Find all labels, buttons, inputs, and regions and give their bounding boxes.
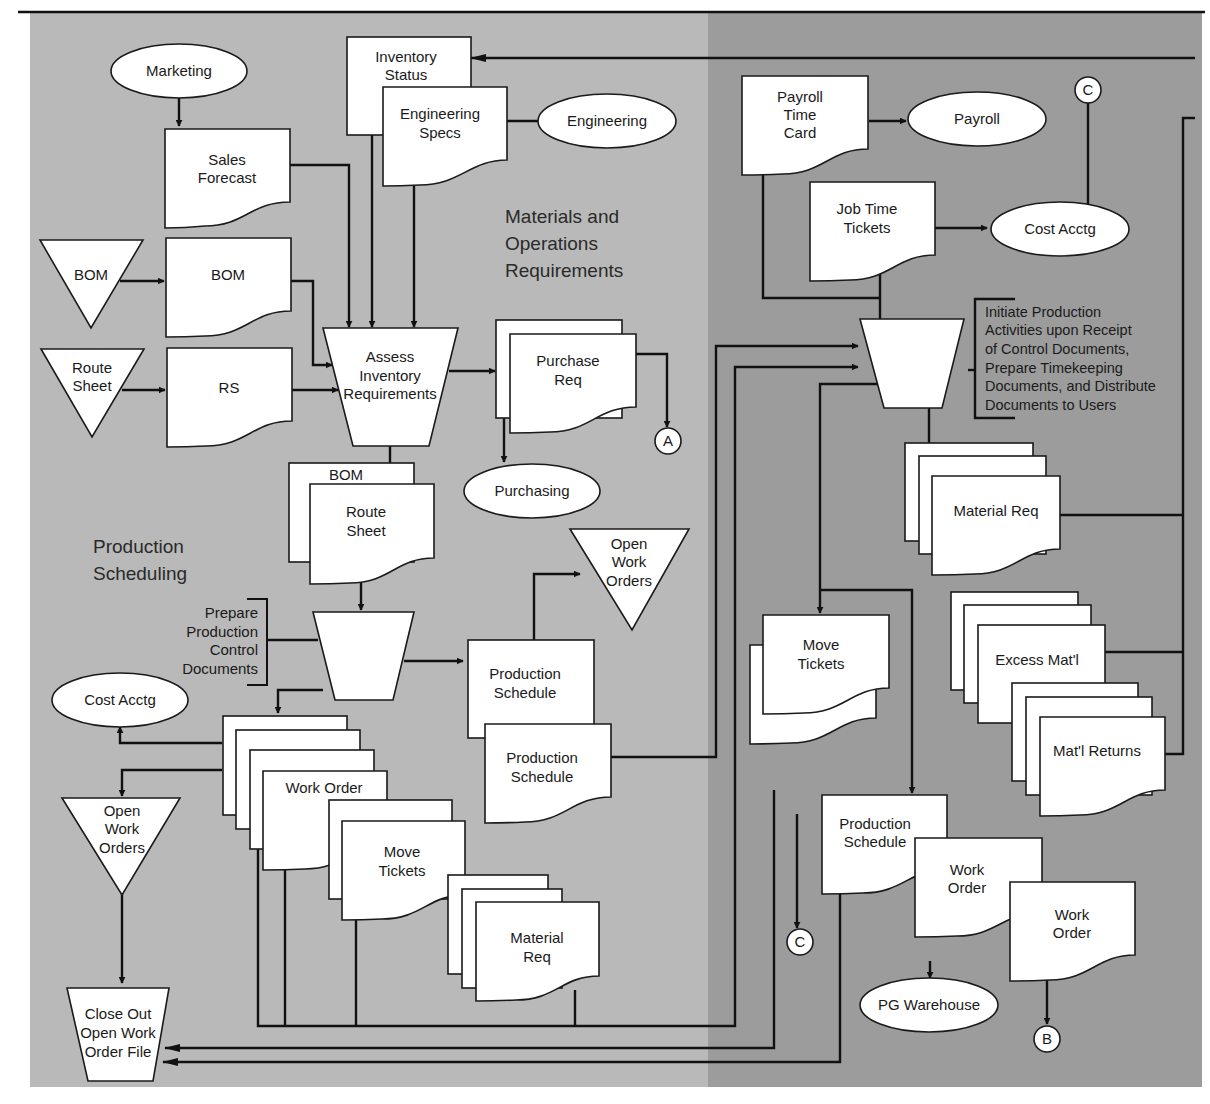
svg-text:Route: Route	[346, 503, 386, 520]
svg-text:Route: Route	[72, 359, 112, 376]
terminal-marketing[interactable]: Marketing	[111, 44, 247, 98]
svg-text:Purchase: Purchase	[536, 352, 599, 369]
svg-text:C: C	[795, 933, 806, 950]
flowchart-canvas: Materials and Operations Requirements Pr…	[0, 0, 1210, 1104]
svg-text:Work: Work	[950, 861, 985, 878]
svg-text:Order File: Order File	[85, 1043, 152, 1060]
svg-text:Order: Order	[1053, 924, 1091, 941]
terminal-purchasing[interactable]: Purchasing	[464, 464, 600, 518]
svg-text:Card: Card	[784, 124, 817, 141]
svg-text:Payroll: Payroll	[954, 110, 1000, 127]
svg-text:Sheet: Sheet	[72, 377, 112, 394]
svg-text:A: A	[663, 432, 673, 449]
svg-text:Tickets: Tickets	[379, 862, 426, 879]
svg-text:Excess Mat'l: Excess Mat'l	[995, 651, 1079, 668]
terminal-engineering[interactable]: Engineering	[538, 94, 676, 148]
terminal-pg-warehouse[interactable]: PG Warehouse	[860, 978, 998, 1032]
svg-text:Schedule: Schedule	[511, 768, 574, 785]
svg-text:Schedule: Schedule	[494, 684, 557, 701]
svg-text:Tickets: Tickets	[844, 219, 891, 236]
svg-text:Requirements: Requirements	[505, 260, 623, 281]
svg-text:Cost Acctg: Cost Acctg	[84, 691, 156, 708]
svg-text:Documents, and Distribute: Documents, and Distribute	[985, 378, 1156, 394]
terminal-cost-acctg-left[interactable]: Cost Acctg	[52, 673, 188, 727]
svg-text:Schedule: Schedule	[844, 833, 907, 850]
svg-text:Production: Production	[839, 815, 911, 832]
svg-text:Initiate Production: Initiate Production	[985, 304, 1101, 320]
svg-text:Scheduling: Scheduling	[93, 563, 187, 584]
svg-text:Production: Production	[506, 749, 578, 766]
svg-text:Prepare: Prepare	[205, 604, 258, 621]
svg-text:Work: Work	[1055, 906, 1090, 923]
svg-text:Sheet: Sheet	[346, 522, 386, 539]
svg-text:of Control Documents,: of Control Documents,	[985, 341, 1129, 357]
svg-text:Open Work: Open Work	[80, 1024, 156, 1041]
svg-text:Specs: Specs	[419, 124, 461, 141]
svg-text:RS: RS	[219, 379, 240, 396]
svg-text:Move: Move	[803, 636, 840, 653]
svg-text:Production: Production	[489, 665, 561, 682]
svg-text:Open: Open	[104, 802, 141, 819]
svg-text:Move: Move	[384, 843, 421, 860]
svg-text:Sales: Sales	[208, 151, 246, 168]
svg-text:Material: Material	[510, 929, 563, 946]
svg-text:Prepare Timekeeping: Prepare Timekeeping	[985, 360, 1123, 376]
svg-text:Status: Status	[385, 66, 428, 83]
svg-text:Requirements: Requirements	[343, 385, 436, 402]
svg-text:Orders: Orders	[606, 572, 652, 589]
document-purchase-req[interactable]: Purchase Req	[496, 320, 636, 433]
svg-text:Orders: Orders	[99, 839, 145, 856]
svg-text:Order: Order	[948, 879, 986, 896]
svg-text:Purchasing: Purchasing	[494, 482, 569, 499]
svg-text:Engineering: Engineering	[400, 105, 480, 122]
svg-text:Engineering: Engineering	[567, 112, 647, 129]
svg-text:Marketing: Marketing	[146, 62, 212, 79]
svg-text:Time: Time	[784, 106, 817, 123]
connector-c-top[interactable]: C	[1075, 77, 1101, 103]
svg-text:Tickets: Tickets	[798, 655, 845, 672]
svg-text:BOM: BOM	[211, 266, 245, 283]
svg-text:BOM: BOM	[74, 266, 108, 283]
connector-b[interactable]: B	[1034, 1026, 1060, 1052]
svg-text:Material Req: Material Req	[953, 502, 1038, 519]
svg-text:Production: Production	[186, 623, 258, 640]
svg-text:Close Out: Close Out	[85, 1005, 153, 1022]
svg-text:Job Time: Job Time	[837, 200, 898, 217]
svg-text:Req: Req	[554, 371, 582, 388]
svg-text:Inventory: Inventory	[359, 367, 421, 384]
terminal-cost-acctg-right[interactable]: Cost Acctg	[991, 202, 1129, 256]
svg-text:Work: Work	[612, 553, 647, 570]
svg-text:Documents to Users: Documents to Users	[985, 397, 1116, 413]
svg-text:B: B	[1042, 1030, 1052, 1047]
svg-text:Payroll: Payroll	[777, 88, 823, 105]
svg-text:Documents: Documents	[182, 660, 258, 677]
svg-text:Operations: Operations	[505, 233, 598, 254]
svg-text:Cost Acctg: Cost Acctg	[1024, 220, 1096, 237]
terminal-payroll[interactable]: Payroll	[908, 92, 1046, 146]
svg-text:Production: Production	[93, 536, 184, 557]
svg-text:PG Warehouse: PG Warehouse	[878, 996, 980, 1013]
svg-text:Work: Work	[105, 820, 140, 837]
svg-text:Assess: Assess	[366, 348, 414, 365]
svg-text:Forecast: Forecast	[198, 169, 257, 186]
svg-text:Req: Req	[523, 948, 551, 965]
svg-text:Open: Open	[611, 535, 648, 552]
svg-text:Mat'l Returns: Mat'l Returns	[1053, 742, 1141, 759]
svg-text:Control: Control	[210, 641, 258, 658]
svg-text:C: C	[1083, 81, 1094, 98]
svg-text:Inventory: Inventory	[375, 48, 437, 65]
connector-c-bottom[interactable]: C	[787, 929, 813, 955]
svg-text:Work Order: Work Order	[285, 779, 362, 796]
connector-a[interactable]: A	[655, 428, 681, 454]
svg-text:Activities upon Receipt: Activities upon Receipt	[985, 322, 1132, 338]
svg-text:Materials and: Materials and	[505, 206, 619, 227]
svg-text:BOM: BOM	[329, 466, 363, 483]
